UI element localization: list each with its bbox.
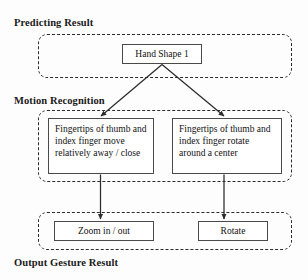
node-motion-rotate-around-center: Fingertips of thumb and index finger rot… [172,118,282,174]
node-output-zoom-in-out: Zoom in / out [54,221,154,241]
section-label-output-gesture-result: Output Gesture Result [14,257,118,268]
node-output-rotate: Rotate [198,221,268,241]
node-hand-shape-1: Hand Shape 1 [122,44,202,64]
section-label-motion-recognition: Motion Recognition [14,95,105,106]
section-label-predicting-result: Predicting Result [14,17,93,28]
node-motion-move-away-close: Fingertips of thumb and index finger mov… [48,118,154,174]
flow-diagram: Predicting Result Motion Recognition Out… [0,0,308,280]
